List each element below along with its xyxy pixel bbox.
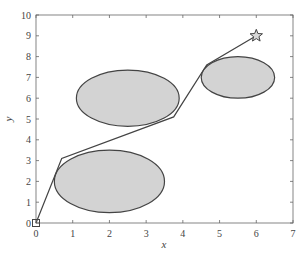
y-tick-label: 7 [26, 72, 31, 83]
x-tick-label: 7 [291, 228, 296, 239]
y-tick-label: 4 [26, 134, 31, 145]
x-tick-label: 6 [254, 228, 259, 239]
obstacles-layer [54, 57, 274, 213]
obstacle-right [201, 57, 274, 99]
x-tick-label: 3 [144, 228, 149, 239]
y-tick-label: 3 [26, 155, 31, 166]
y-axis-label: y [2, 116, 14, 122]
y-tick-label: 9 [26, 30, 31, 41]
y-tick-label: 2 [26, 176, 31, 187]
x-tick-label: 5 [217, 228, 222, 239]
goal-star-icon [250, 29, 262, 41]
obstacle-middle [76, 70, 179, 126]
x-tick-label: 0 [34, 228, 39, 239]
y-tick-label: 1 [26, 197, 31, 208]
y-tick-label: 0 [26, 218, 31, 229]
y-tick-label: 5 [26, 114, 31, 125]
x-tick-label: 4 [180, 228, 185, 239]
obstacle-lower [54, 150, 164, 212]
chart-canvas: 01234567012345678910 x y [0, 0, 305, 257]
y-tick-label: 10 [21, 10, 31, 21]
y-tick-label: 6 [26, 93, 31, 104]
y-tick-label: 8 [26, 51, 31, 62]
x-tick-label: 1 [70, 228, 75, 239]
x-axis-label: x [161, 238, 167, 250]
x-tick-label: 2 [107, 228, 112, 239]
ticks-layer: 01234567012345678910 [21, 10, 296, 240]
